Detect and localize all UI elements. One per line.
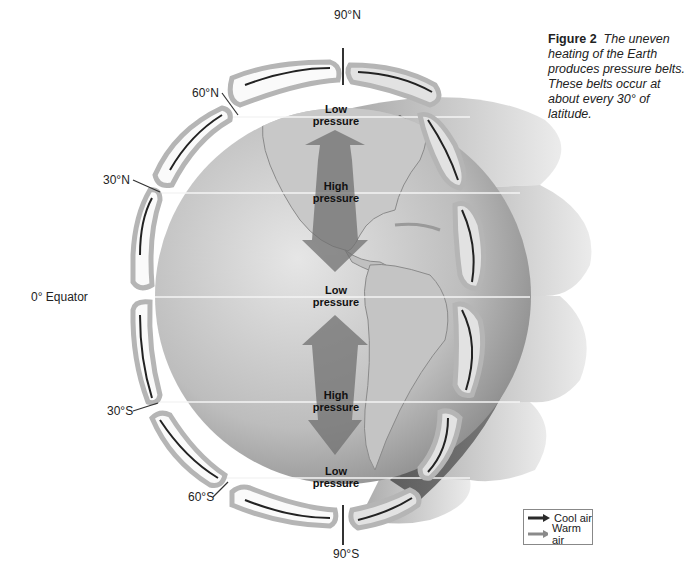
pressure-label-60s: Low pressure: [296, 465, 376, 489]
label-equator: 0° Equator: [31, 290, 88, 304]
pressure-belts-diagram: 90°N 60°N 30°N 0° Equator 30°S 60°S 90°S…: [0, 0, 695, 579]
legend: Cool air Warm air: [523, 509, 593, 545]
pressure-label-60n: Low pressure: [296, 103, 376, 127]
pressure-label-equator: Low pressure: [296, 284, 376, 308]
pressure-label-30n: High pressure: [296, 180, 376, 204]
label-90n: 90°N: [334, 8, 361, 22]
cool-air-arrow-icon: [528, 514, 550, 522]
warm-air-arrow-icon: [528, 530, 548, 538]
label-90s: 90°S: [333, 547, 359, 561]
label-30s: 30°S: [107, 404, 133, 418]
pressure-label-30s: High pressure: [296, 389, 376, 413]
label-60s: 60°S: [188, 490, 214, 504]
legend-item-warm-air: Warm air: [524, 526, 592, 542]
figure-caption: Figure 2 The uneven heating of the Earth…: [548, 32, 693, 122]
label-30n: 30°N: [103, 173, 130, 187]
figure-label: Figure 2: [548, 32, 597, 46]
label-60n: 60°N: [192, 86, 219, 100]
